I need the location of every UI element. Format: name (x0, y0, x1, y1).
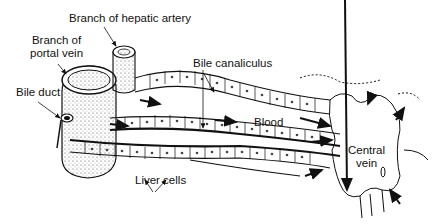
label-portal-vein: Branch of portal vein (30, 34, 83, 60)
label-blood: Blood (254, 116, 283, 129)
label-bile-duct: Bile duct (16, 86, 60, 99)
label-portal-vein-line1: Branch of (30, 34, 83, 47)
label-bile-canaliculus: Bile canaliculus (193, 57, 272, 70)
label-portal-vein-line2: portal vein (30, 47, 83, 60)
hepatic-artery-shape (113, 46, 135, 93)
label-central-vein: Central vein (348, 144, 385, 170)
label-central-vein-line2: vein (348, 157, 385, 170)
label-hepatic-artery: Branch of hepatic artery (69, 12, 191, 25)
label-central-vein-line1: Central (348, 144, 385, 157)
label-liver-cells: Liver cells (135, 174, 186, 187)
liver-lobule-diagram: Branch of hepatic artery Branch of porta… (0, 0, 444, 224)
